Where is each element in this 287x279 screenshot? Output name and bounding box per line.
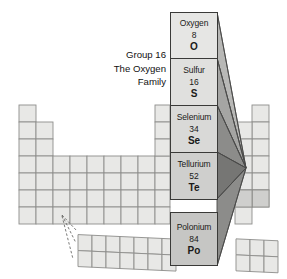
periodic-table-left-block bbox=[19, 105, 170, 224]
element-atomic-number: 84 bbox=[189, 233, 198, 245]
element-atomic-number: 8 bbox=[192, 29, 197, 41]
element-name: Selenium bbox=[177, 112, 212, 123]
element-symbol: O bbox=[190, 41, 198, 53]
element-cell-tellurium[interactable]: Tellurium 52 Te bbox=[170, 152, 218, 200]
element-symbol: S bbox=[191, 88, 198, 100]
element-name: Oxygen bbox=[180, 18, 209, 29]
element-name: Tellurium bbox=[177, 159, 210, 170]
element-symbol: Po bbox=[188, 245, 201, 257]
element-atomic-number: 52 bbox=[189, 170, 198, 182]
element-cell-polonium[interactable]: Polonium 84 Po bbox=[170, 212, 218, 266]
element-cell-sulfur[interactable]: Sulfur 16 S bbox=[170, 58, 218, 106]
caption-line-2: The Oxygen bbox=[86, 62, 166, 76]
element-symbol: Te bbox=[189, 182, 200, 194]
element-atomic-number: 34 bbox=[189, 123, 198, 135]
element-name: Polonium bbox=[177, 222, 212, 233]
periodic-table-bottom-block-right bbox=[236, 239, 278, 273]
element-cell-selenium[interactable]: Selenium 34 Se bbox=[170, 105, 218, 153]
element-cell-oxygen[interactable]: Oxygen 8 O bbox=[170, 12, 218, 59]
caption-line-1: Group 16 bbox=[86, 48, 166, 62]
periodic-table-diagram bbox=[0, 0, 287, 279]
periodic-table-bottom-block bbox=[78, 235, 176, 272]
caption-line-3: Family bbox=[86, 75, 166, 89]
figure-caption: Group 16 The Oxygen Family bbox=[86, 48, 166, 89]
element-symbol: Se bbox=[188, 135, 200, 147]
periodic-table-group16-figure: Group 16 The Oxygen Family Oxygen 8 O Su… bbox=[0, 0, 287, 279]
element-name: Sulfur bbox=[183, 65, 205, 76]
element-atomic-number: 16 bbox=[189, 76, 198, 88]
